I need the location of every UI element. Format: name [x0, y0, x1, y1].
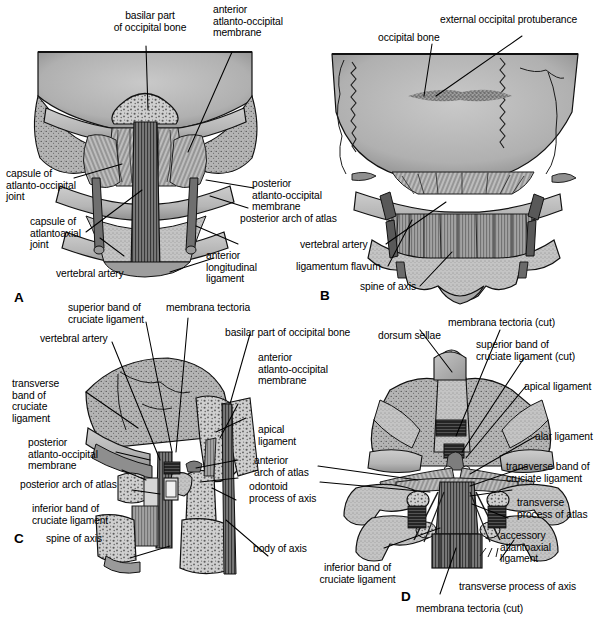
label-body-of-axis-c: body of axis — [253, 543, 353, 555]
label-membrana-tectoria-cut-top-d: membrana tectoria (cut) — [448, 317, 612, 329]
label-inferior-band-of-cruciate-ligament-c: inferior band of cruciate ligament — [32, 503, 152, 526]
label-anterior-atlanto-occipital-membrane-c: anterior atlanto-occipital membrane — [258, 352, 368, 387]
label-transverse-process-of-axis-d: transverse process of axis — [459, 581, 609, 593]
label-membrana-tectoria-cut-bottom-d: membrana tectoria (cut) — [416, 603, 596, 615]
label-external-occipital-protuberance-b: external occipital protuberance — [440, 14, 612, 26]
label-posterior-arch-of-atlas-a: posterior arch of atlas — [240, 213, 390, 225]
label-capsule-of-atlanto-occipital-joint-a: capsule of atlanto-occipital joint — [6, 168, 126, 203]
panel-letter-b: B — [320, 289, 330, 303]
label-alar-ligament-d: alar ligament — [535, 431, 612, 443]
label-transverse-process-of-atlas-d: transverse process of atlas — [517, 497, 612, 520]
label-inferior-band-of-cruciate-ligament-d: inferior band of cruciate ligament — [290, 562, 425, 585]
label-anterior-longitudinal-ligament-a: anterior longitudinal ligament — [206, 250, 304, 285]
label-transverse-band-of-cruciate-ligament-c: transverse band of cruciate ligament — [12, 378, 100, 424]
label-odontoid-process-of-axis-c: odontoid process of axis — [249, 481, 359, 504]
label-posterior-atlanto-occipital-membrane-c: posterior atlanto-occipital membrane — [28, 437, 146, 472]
anatomical-figure: basilar part of occipital bone anterior … — [0, 0, 612, 621]
label-transverse-band-of-cruciate-ligament-d: transverse band of cruciate ligament — [506, 461, 612, 484]
label-spine-of-axis-b: spine of axis — [360, 281, 460, 293]
label-vertebral-artery-b: vertebral artery — [300, 239, 410, 251]
label-apical-ligament-d: apical ligament — [524, 381, 612, 393]
label-ligamentum-flavum-b: ligamentum flavum — [296, 261, 416, 273]
label-capsule-of-atlantoaxial-joint-a: capsule of atlantoaxial joint — [30, 216, 140, 251]
panel-letter-a: A — [14, 291, 24, 305]
label-spine-of-axis-c: spine of axis — [46, 533, 146, 545]
label-superior-band-of-cruciate-ligament-cut-d: superior band of cruciate ligament (cut) — [476, 339, 612, 362]
label-apical-ligament-c: apical ligament — [258, 424, 338, 447]
label-vertebral-artery-a: vertebral artery — [56, 268, 166, 280]
label-occipital-bone-b: occipital bone — [378, 32, 498, 44]
label-membrana-tectoria-c: membrana tectoria — [166, 302, 296, 314]
panel-letter-d: D — [401, 590, 411, 604]
label-posterior-atlanto-occipital-membrane-a: posterior atlanto-occipital membrane — [252, 178, 372, 213]
label-posterior-arch-of-atlas-c: posterior arch of atlas — [20, 479, 162, 491]
label-accessory-atlantoaxial-ligament-d: accessory atlantoaxial ligament — [500, 530, 596, 565]
label-vertebral-artery-c: vertebral artery — [40, 333, 160, 345]
panel-letter-c: C — [14, 532, 24, 546]
label-anterior-atlanto-occipital-membrane-a: anterior atlanto-occipital membrane — [213, 4, 333, 39]
label-anterior-arch-of-atlas-c: anterior arch of atlas — [254, 455, 350, 478]
label-basilar-part-of-occipital-bone-a: basilar part of occipital bone — [72, 10, 228, 33]
